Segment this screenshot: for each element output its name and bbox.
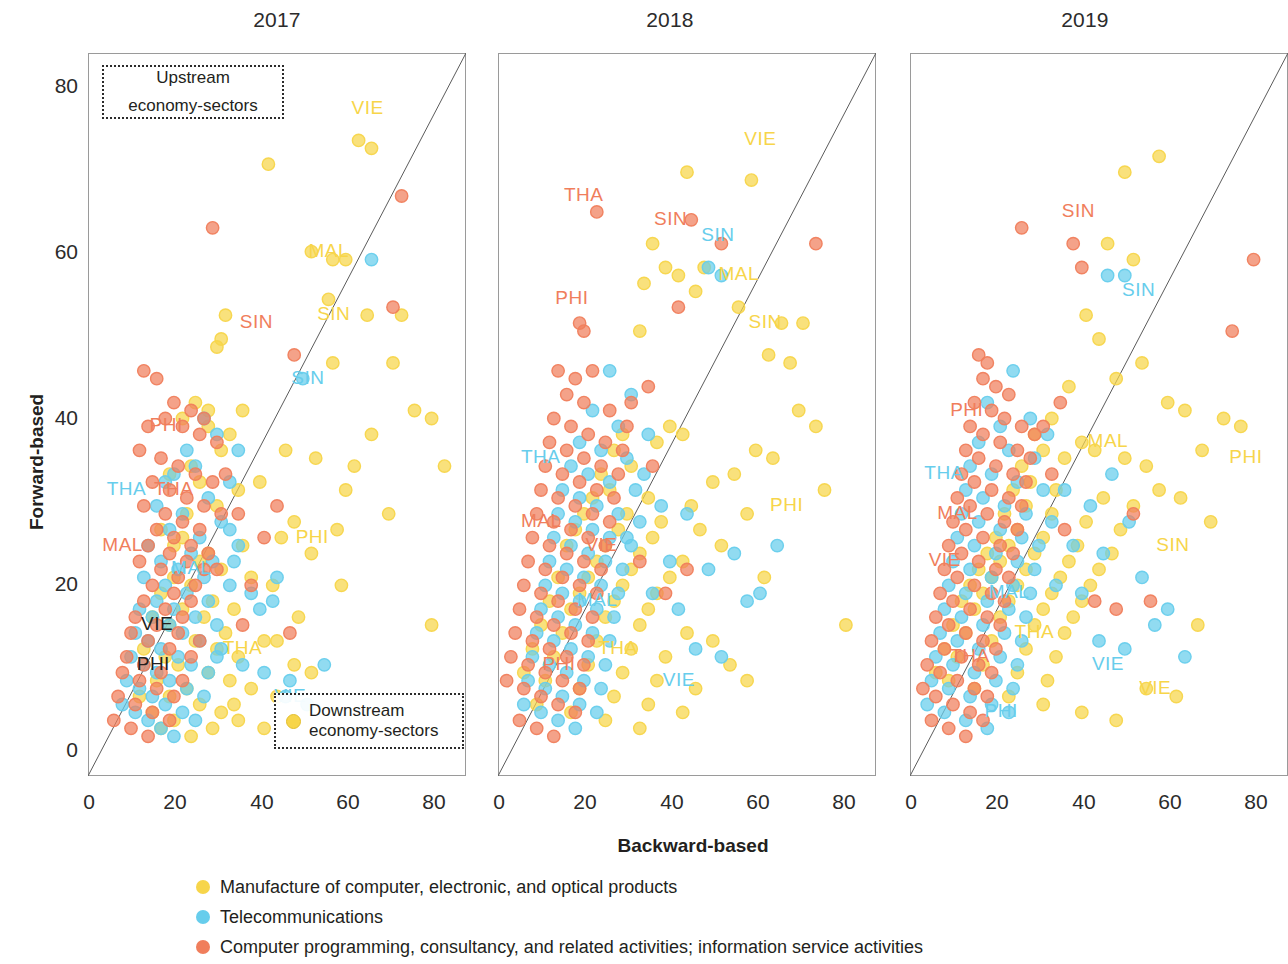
legend-item-telecommunications[interactable]: Telecommunications — [196, 902, 1196, 932]
data-point — [917, 682, 929, 694]
data-point — [1058, 452, 1070, 464]
data-point — [960, 730, 972, 742]
data-point — [331, 524, 343, 536]
data-point — [1119, 166, 1131, 178]
data-point — [947, 698, 959, 710]
data-point — [189, 468, 201, 480]
data-point — [1076, 587, 1088, 599]
data-point — [262, 158, 274, 170]
data-point — [977, 531, 989, 543]
data-point — [1050, 579, 1062, 591]
data-point — [202, 547, 214, 559]
data-point — [621, 420, 633, 432]
data-point — [535, 587, 547, 599]
legend-swatch-icon — [196, 910, 210, 924]
data-point — [1041, 675, 1053, 687]
data-point — [518, 682, 530, 694]
data-point — [125, 722, 137, 734]
data-point — [616, 444, 628, 456]
data-point — [968, 476, 980, 488]
data-point — [659, 651, 671, 663]
data-point — [228, 555, 240, 567]
data-point — [1020, 611, 1032, 623]
legend-item-manufacture[interactable]: Manufacture of computer, electronic, and… — [196, 872, 1196, 902]
data-point — [578, 555, 590, 567]
data-point — [556, 571, 568, 583]
data-point — [318, 659, 330, 671]
data-point — [655, 500, 667, 512]
data-point — [1024, 587, 1036, 599]
data-point — [1093, 333, 1105, 345]
data-point — [202, 595, 214, 607]
data-point — [288, 659, 300, 671]
data-point — [681, 563, 693, 575]
data-point — [155, 452, 167, 464]
data-point — [604, 635, 616, 647]
legend-item-computer-programming[interactable]: Computer programming, consultancy, and r… — [196, 932, 1196, 962]
data-point — [322, 293, 334, 305]
data-point — [1067, 238, 1079, 250]
data-point — [728, 468, 740, 480]
data-point — [327, 253, 339, 265]
data-point — [608, 492, 620, 504]
data-point — [947, 516, 959, 528]
data-point — [1076, 706, 1088, 718]
data-point — [578, 396, 590, 408]
panel-2017[interactable]: VIEMALSINSINSINPHIPHITHATHAMALMALVIEPHIT… — [88, 53, 466, 776]
data-point — [138, 500, 150, 512]
panel-2018[interactable]: VIETHASINSINMALSINPHITHAPHIMALVIEMALTHAP… — [498, 53, 876, 776]
data-point — [981, 357, 993, 369]
data-point — [172, 460, 184, 472]
data-point — [595, 682, 607, 694]
data-point — [232, 444, 244, 456]
data-point — [138, 595, 150, 607]
data-point — [797, 317, 809, 329]
legend-swatch-icon — [196, 880, 210, 894]
data-point — [642, 698, 654, 710]
data-point — [211, 651, 223, 663]
callout-downstream: Downstream economy-sectors — [274, 693, 464, 749]
data-point — [578, 659, 590, 671]
data-point — [728, 547, 740, 559]
data-point — [185, 730, 197, 742]
data-point — [925, 635, 937, 647]
data-point — [646, 531, 658, 543]
data-point — [1153, 150, 1165, 162]
data-point — [151, 682, 163, 694]
data-point — [1080, 516, 1092, 528]
data-point — [955, 651, 967, 663]
data-point — [689, 643, 701, 655]
data-point — [681, 627, 693, 639]
data-point — [1046, 516, 1058, 528]
data-point — [561, 388, 573, 400]
data-point — [288, 349, 300, 361]
data-point — [159, 508, 171, 520]
data-point — [784, 357, 796, 369]
p1-x-tick-0: 0 — [67, 790, 111, 814]
data-point — [672, 603, 684, 615]
data-point — [142, 420, 154, 432]
data-point — [539, 563, 551, 575]
data-point — [310, 452, 322, 464]
data-point — [518, 579, 530, 591]
p1-x-tick-80: 80 — [412, 790, 456, 814]
data-point — [767, 452, 779, 464]
data-point — [973, 555, 985, 567]
data-point — [634, 555, 646, 567]
data-point — [1162, 603, 1174, 615]
data-point — [189, 714, 201, 726]
data-point — [1024, 452, 1036, 464]
data-point — [288, 516, 300, 528]
data-points — [108, 134, 451, 742]
data-point — [973, 452, 985, 464]
data-point — [522, 555, 534, 567]
panel-2019[interactable]: SINSINPHIMALPHITHAMALSINVIEMALTHAVIEVIET… — [910, 53, 1288, 776]
data-point — [202, 667, 214, 679]
data-point — [228, 603, 240, 615]
data-point — [539, 460, 551, 472]
data-point — [151, 524, 163, 536]
data-point — [964, 603, 976, 615]
data-point — [586, 508, 598, 520]
callout-upstream-line2: economy-sectors — [114, 96, 272, 116]
